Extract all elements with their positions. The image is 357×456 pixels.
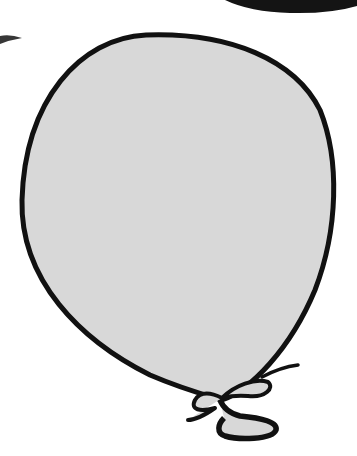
balloon-bow-left — [188, 394, 222, 420]
balloon-body — [22, 35, 334, 400]
balloon-illustration — [0, 0, 357, 456]
balloon-svg — [0, 0, 357, 456]
partial-balloon-corner — [0, 35, 22, 44]
balloon-knot — [219, 400, 276, 438]
partial-balloon-top — [225, 0, 357, 13]
